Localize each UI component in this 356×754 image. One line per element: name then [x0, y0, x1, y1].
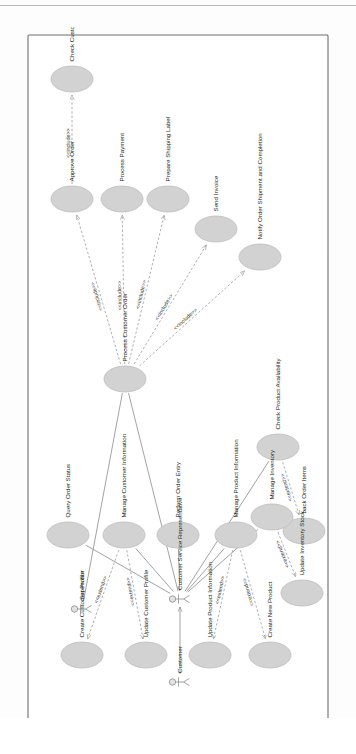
- use-case-ellipse[interactable]: [51, 186, 93, 212]
- use-case-ellipse[interactable]: [51, 66, 93, 92]
- diagram-rotation-container: <<include>><<include>><<include>><<inclu…: [0, 0, 356, 754]
- use-case-label: Update Product Information: [206, 561, 213, 637]
- use-case-label: Check Product Availability: [274, 358, 281, 430]
- use-case-diagram-svg: <<include>><<include>><<include>><<inclu…: [20, 27, 336, 727]
- use-case-ellipse[interactable]: [47, 522, 89, 548]
- actor-label: Customer Service Representative: [176, 497, 183, 590]
- use-case-ellipse[interactable]: [61, 642, 103, 668]
- use-case-label: Prepare Shipping Label: [164, 117, 171, 182]
- use-case-ellipse[interactable]: [195, 216, 237, 242]
- use-case-ellipse[interactable]: [251, 504, 293, 530]
- system-boundary: [28, 35, 328, 719]
- use-case-label: Notify Order Shipment and Completion: [256, 133, 263, 240]
- use-case-label: Approve Order: [68, 141, 75, 182]
- use-case-label: Manage Inventory: [268, 449, 275, 499]
- use-case-label: Query Order Status: [64, 464, 71, 518]
- use-case-label: Process Customer Order: [121, 293, 128, 361]
- use-case-ellipse[interactable]: [104, 366, 146, 392]
- use-case-label: Check Customer Credit: [68, 27, 75, 62]
- use-case-label: back Order Items: [300, 466, 307, 513]
- use-case-label: Send Invoice: [212, 175, 219, 211]
- use-case-ellipse[interactable]: [249, 642, 291, 668]
- use-case-label: Manage Product Information: [232, 439, 239, 518]
- diagram-page: <<include>><<include>><<include>><<inclu…: [0, 0, 356, 754]
- use-case-ellipse[interactable]: [257, 434, 299, 460]
- actor-label: Customer: [176, 646, 183, 673]
- use-case-ellipse[interactable]: [189, 642, 231, 668]
- use-case-ellipse[interactable]: [281, 580, 323, 606]
- use-case-ellipse[interactable]: [147, 186, 189, 212]
- use-case-label: Create New Product: [266, 582, 273, 638]
- use-case-label: Manage Customer Information: [120, 433, 127, 517]
- use-case-label: Update Customer Profile: [142, 569, 149, 637]
- use-case-label: Process Payment: [118, 133, 125, 182]
- use-case-ellipse[interactable]: [215, 522, 257, 548]
- use-case-ellipse[interactable]: [103, 522, 145, 548]
- use-case-ellipse[interactable]: [101, 186, 143, 212]
- use-case-label: Update Inventory Stock: [298, 510, 305, 575]
- page-bottom-margin: [0, 718, 356, 754]
- use-case-ellipse[interactable]: [239, 244, 281, 270]
- use-case-ellipse[interactable]: [125, 642, 167, 668]
- actor-label: Supervisor: [78, 570, 85, 600]
- diagram-canvas: <<include>><<include>><<include>><<inclu…: [20, 27, 336, 727]
